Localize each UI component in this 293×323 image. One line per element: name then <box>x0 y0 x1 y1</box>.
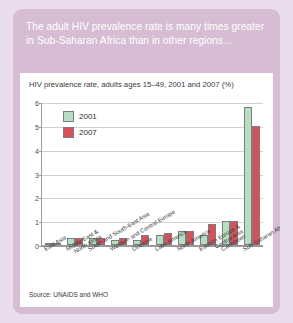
chart-title: HIV prevalence rate, adults ages 15–49, … <box>29 80 234 89</box>
legend-item: 2007 <box>63 127 97 138</box>
source-note: Source: UNAIDS and WHO <box>29 291 108 298</box>
info-card: The adult HIV prevalence rate is many ti… <box>13 9 280 314</box>
chart-legend: 20012007 <box>63 111 97 143</box>
bar <box>244 107 252 245</box>
bar <box>252 126 260 245</box>
bar-group <box>175 103 197 245</box>
legend-label: 2001 <box>79 112 97 121</box>
bar-group <box>197 103 219 245</box>
bar-group <box>241 103 263 245</box>
x-axis-labels: East AsiaMiddle East &North AfricaSouth … <box>41 247 263 295</box>
legend-swatch <box>63 127 74 138</box>
chart-panel: HIV prevalence rate, adults ages 15–49, … <box>20 73 273 307</box>
legend-swatch <box>63 111 74 122</box>
legend-label: 2007 <box>79 128 97 137</box>
headline-text: The adult HIV prevalence rate is many ti… <box>26 20 266 48</box>
bar-group <box>42 103 64 245</box>
legend-item: 2001 <box>63 111 97 122</box>
